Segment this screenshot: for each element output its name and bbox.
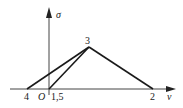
edge-15-3: [49, 47, 89, 89]
y-axis: [46, 7, 52, 95]
cycle-lines: [27, 47, 153, 89]
point-1-5-label: 1,5: [51, 91, 64, 102]
origin-label: O: [38, 91, 45, 102]
y-axis-label: σ: [56, 9, 62, 20]
edge-4-3: [27, 47, 89, 89]
point-3-label: 3: [85, 35, 90, 46]
point-2-label: 2: [150, 91, 155, 102]
sigma-v-diagram: σ v O 3 4 1,5 2: [0, 0, 183, 108]
point-4-label: 4: [24, 91, 29, 102]
x-axis-label: v: [167, 91, 172, 102]
edge-3-2: [89, 47, 153, 89]
y-axis-arrow-icon: [46, 7, 52, 18]
